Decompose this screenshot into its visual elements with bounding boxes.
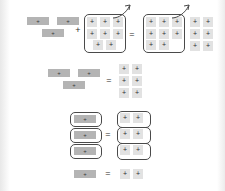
square-tile: +	[119, 76, 129, 86]
square-tile: +	[146, 17, 156, 27]
square-tile: +	[203, 29, 213, 39]
bar-tile: +	[78, 69, 100, 77]
equals-operator: =	[127, 30, 137, 39]
square-tile: +	[159, 29, 169, 39]
square-tile: +	[100, 29, 110, 39]
bar-tile: +	[74, 115, 96, 123]
bar-tile: +	[74, 170, 96, 178]
square-tile: +	[113, 29, 123, 39]
square-tile: +	[132, 76, 142, 86]
square-tile: +	[93, 40, 103, 50]
plus-operator: +	[73, 26, 83, 35]
bar-tile: +	[27, 17, 49, 25]
square-tile: +	[119, 64, 129, 74]
square-tile: +	[190, 41, 200, 51]
bar-tile: +	[42, 29, 64, 37]
bar-tile: +	[63, 81, 85, 89]
square-tile: +	[203, 17, 213, 27]
square-tile: +	[120, 129, 130, 139]
equals-operator: =	[103, 169, 113, 178]
square-tile: +	[133, 129, 143, 139]
arrow-up-right-icon	[171, 3, 191, 19]
square-tile: +	[159, 17, 169, 27]
square-tile: +	[100, 17, 110, 27]
square-tile: +	[132, 88, 142, 98]
square-tile: +	[190, 17, 200, 27]
square-tile: +	[87, 29, 97, 39]
square-tile: +	[133, 169, 143, 179]
square-tile: +	[106, 40, 116, 50]
diagram-canvas: + + + + + + + + + + + + =	[0, 0, 225, 191]
bar-tile: +	[74, 131, 96, 139]
square-tile: +	[146, 29, 156, 39]
square-tile: +	[159, 40, 169, 50]
square-tile: +	[172, 29, 182, 39]
square-tile: +	[146, 40, 156, 50]
equals-operator: =	[103, 130, 113, 139]
square-tile: +	[133, 113, 143, 123]
square-tile: +	[133, 145, 143, 155]
square-tile: +	[119, 88, 129, 98]
arrow-up-right-icon	[112, 3, 132, 19]
square-tile: +	[120, 145, 130, 155]
bar-tile: +	[57, 17, 79, 25]
square-tile: +	[190, 29, 200, 39]
square-tile: +	[120, 169, 130, 179]
square-tile: +	[120, 113, 130, 123]
square-tile: +	[132, 64, 142, 74]
equals-operator: =	[104, 76, 114, 85]
bar-tile: +	[48, 69, 70, 77]
bar-tile: +	[74, 147, 96, 155]
square-tile: +	[87, 17, 97, 27]
square-tile: +	[203, 41, 213, 51]
